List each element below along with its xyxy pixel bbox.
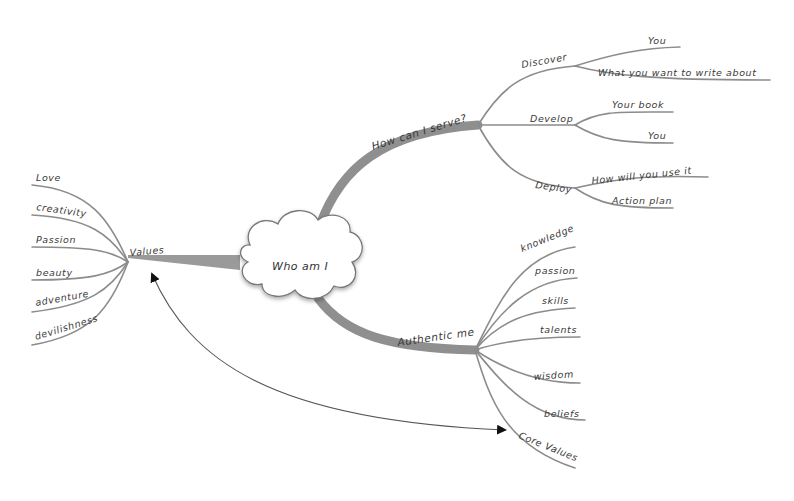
label-beauty: beauty [36, 267, 73, 278]
label-passion-am: passion [534, 265, 575, 276]
label-adventure: adventure [34, 288, 89, 308]
label-deploy-action-plan: Action plan [611, 195, 672, 206]
central-topic-cloud[interactable] [241, 211, 363, 299]
label-passion: Passion [36, 234, 76, 245]
label-discover-you: You [648, 35, 666, 46]
label-develop: Develop [530, 113, 573, 124]
label-wisdom: wisdom [533, 368, 574, 382]
label-develop-you: You [648, 130, 666, 141]
central-topic-label: Who am I [272, 260, 328, 273]
label-love: Love [36, 172, 61, 183]
label-beliefs: beliefs [544, 408, 580, 419]
branch-values[interactable] [128, 255, 240, 270]
label-devilishness: devilishness [33, 312, 99, 342]
label-talents: talents [540, 324, 577, 335]
label-discover-write-about: What you want to write about [598, 67, 757, 78]
label-core-values: Core Values [517, 430, 580, 464]
label-develop-your-book: Your book [612, 99, 664, 110]
mind-map-canvas: Who am I How can I serve? Values Authent… [0, 0, 794, 501]
label-deploy-how-use: How will you use it [591, 164, 693, 186]
label-deploy: Deploy [535, 179, 573, 195]
label-skills: skills [542, 295, 569, 306]
